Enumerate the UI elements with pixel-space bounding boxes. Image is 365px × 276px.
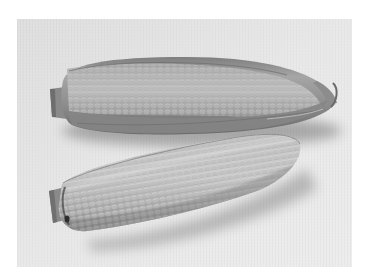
- corn-photo: Two ears of corn: [17, 19, 352, 267]
- corn-illustration: [17, 19, 352, 267]
